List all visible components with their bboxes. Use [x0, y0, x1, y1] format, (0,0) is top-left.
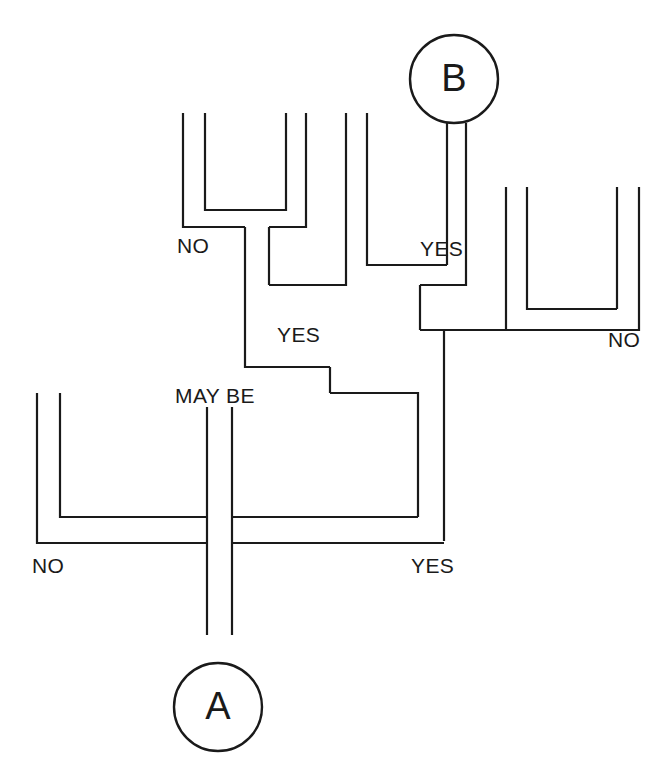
- edge-label-may-be-center: MAY BE: [175, 384, 255, 407]
- edge-label-yes-top-right: YES: [420, 237, 463, 260]
- branch-group-mid-outer-right-path: [420, 123, 466, 285]
- branch-group-left-inner-path: [205, 113, 286, 210]
- branch-group-right-inner-left-path: [527, 187, 617, 309]
- node-a-label: A: [205, 685, 231, 727]
- edge-label-yes-mid-left: YES: [277, 323, 320, 346]
- branch-a-no-outer-path: [37, 393, 207, 543]
- edge-label-no-top-left: NO: [177, 234, 209, 257]
- branch-a-no-inner-path: [60, 393, 207, 517]
- node-b-label: B: [441, 57, 466, 99]
- branch-group-mid-outer-left-path: [269, 113, 346, 285]
- decision-tree-diagram: A B NO YES YES NO MAY BE NO YES: [0, 0, 672, 776]
- diagram-canvas: A B NO YES YES NO MAY BE NO YES: [0, 0, 672, 776]
- edge-label-no-mid-right: NO: [608, 328, 640, 351]
- edge-label-yes-bottom: YES: [411, 554, 454, 577]
- level2-junction-bottom-span: [330, 393, 418, 517]
- edge-label-no-bottom-left: NO: [32, 554, 64, 577]
